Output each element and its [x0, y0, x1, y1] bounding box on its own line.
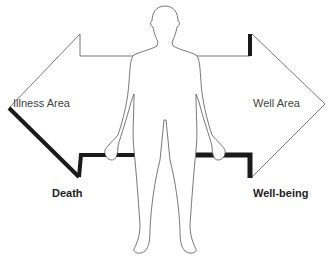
- death-label: Death: [52, 187, 83, 199]
- diagram-graphic: [0, 0, 331, 266]
- well-area-label: Well Area: [253, 97, 300, 109]
- human-figure-icon: [105, 6, 225, 253]
- well-being-label: Well-being: [253, 187, 308, 199]
- continuum-diagram: Illness Area Well Area Death Well-being: [0, 0, 331, 266]
- illness-area-label: Illness Area: [13, 97, 70, 109]
